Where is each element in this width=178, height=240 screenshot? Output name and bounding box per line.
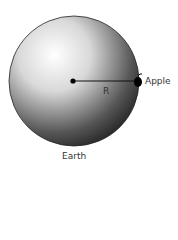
- radius-label: R: [103, 86, 109, 96]
- apple-label: Apple: [145, 76, 171, 86]
- earth-label: Earth: [62, 151, 86, 161]
- center-point: [70, 78, 75, 83]
